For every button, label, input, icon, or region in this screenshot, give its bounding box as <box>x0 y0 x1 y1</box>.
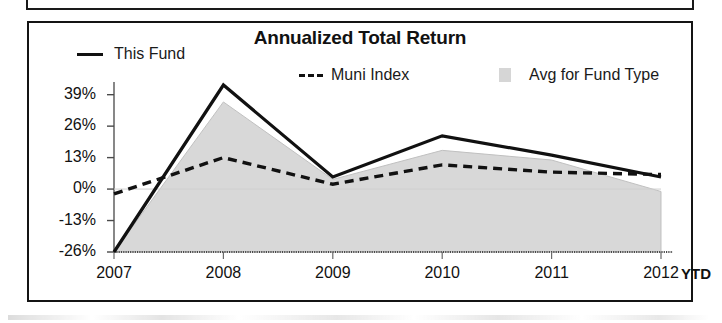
chart-svg <box>29 23 691 300</box>
previous-panel-bottom-border <box>26 0 694 10</box>
x-axis-tick-2011: 2011 <box>517 264 587 282</box>
y-axis-tick-5: -26% <box>36 242 96 260</box>
y-axis-tick-4: -13% <box>36 211 96 229</box>
scan-artifact <box>8 315 708 320</box>
y-axis-tick-3: 0% <box>36 179 96 197</box>
x-axis-tick-2009: 2009 <box>298 264 368 282</box>
plot-area: 39%26%13%0%-13%-26% 20072008200920102011… <box>29 23 691 300</box>
y-axis-tick-0: 39% <box>36 85 96 103</box>
y-axis-tick-2: 13% <box>36 148 96 166</box>
y-axis-tick-1: 26% <box>36 116 96 134</box>
x-axis-tick-2010: 2010 <box>407 264 477 282</box>
annualized-total-return-panel: Annualized Total Return This Fund Muni I… <box>27 21 693 302</box>
x-axis-ytd-label: YTD <box>681 265 711 282</box>
x-axis-tick-2008: 2008 <box>188 264 258 282</box>
x-axis-tick-2007: 2007 <box>79 264 149 282</box>
